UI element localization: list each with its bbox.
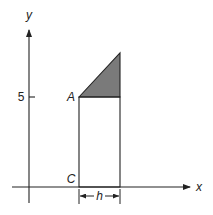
rectangle	[79, 97, 120, 187]
dimension-h-label: h	[96, 189, 103, 203]
x-axis-label: x	[195, 180, 203, 194]
shaded-triangle	[79, 53, 120, 97]
point-a-label: A	[66, 90, 75, 104]
point-c-label: C	[67, 172, 76, 186]
y-axis-label: y	[25, 8, 33, 22]
diagram: y x 5 A C h	[0, 0, 213, 215]
y-tick-label: 5	[18, 90, 25, 104]
